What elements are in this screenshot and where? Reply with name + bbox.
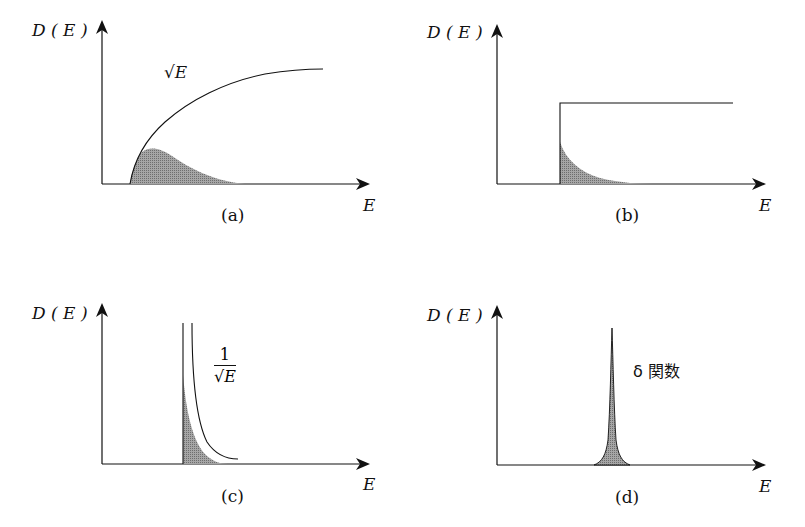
y-axis-label-c: D ( E ) (32, 303, 88, 323)
fraction-denominator: √E (214, 366, 236, 386)
y-axis-label-a: D ( E ) (32, 20, 88, 40)
shaded-region-c (183, 375, 228, 464)
caption-c: (c) (221, 486, 244, 506)
caption-b: (b) (615, 205, 639, 225)
x-axis-label-c: E (363, 474, 375, 494)
panel-d (491, 305, 766, 471)
y-axis-label-b: D ( E ) (427, 22, 483, 42)
curve-label-a: √E (164, 62, 187, 82)
delta-spike-d (594, 328, 630, 465)
figure-canvas (0, 0, 805, 527)
shaded-region-b (560, 142, 660, 184)
x-axis-label-b: E (759, 195, 771, 215)
curve-label-d: δ 関数 (633, 358, 680, 382)
panel-c (96, 303, 370, 470)
panel-a (96, 20, 370, 190)
x-axis-label-a: E (363, 195, 375, 215)
caption-d: (d) (615, 487, 639, 507)
y-axis-label-d: D ( E ) (427, 305, 483, 325)
fraction-numerator: 1 (214, 345, 236, 366)
caption-a: (a) (221, 205, 244, 225)
panel-b (491, 24, 766, 190)
inverse-sqrt-curve-c (192, 323, 238, 459)
curve-label-c: 1 √E (214, 345, 236, 386)
x-axis-label-d: E (759, 476, 771, 496)
shaded-region-a (130, 149, 245, 184)
step-curve-b (560, 103, 733, 184)
